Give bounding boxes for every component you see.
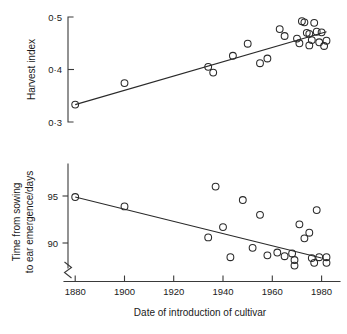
x-tick-label: 1900	[114, 286, 135, 297]
x-tick-label: 1940	[212, 286, 233, 297]
bottom-panel-x-ticks	[75, 276, 321, 282]
data-point	[296, 221, 303, 228]
data-point	[281, 33, 288, 40]
data-point	[313, 207, 320, 214]
data-point	[244, 40, 251, 47]
data-point	[276, 26, 283, 33]
data-point	[230, 52, 237, 59]
data-point	[239, 197, 246, 204]
bottom-panel-x-tick-labels: 1880 1900 1920 1940 1960 1980	[65, 286, 333, 297]
bottom-panel-fit-line	[75, 197, 321, 258]
data-point	[264, 252, 271, 259]
axis-break-icon	[65, 262, 72, 278]
figure-container: 0·5 0·4 0·3 Harvest index	[0, 0, 347, 334]
bottom-panel-y-tick-label-90: 90	[47, 238, 58, 249]
data-point	[301, 235, 308, 242]
data-point	[121, 80, 128, 87]
x-tick-label: 1980	[311, 286, 332, 297]
bottom-panel: 95 90 Time from sowing to ear emergence/…	[11, 164, 340, 318]
data-point	[205, 234, 212, 241]
data-point	[257, 60, 264, 67]
data-point	[264, 55, 271, 62]
bottom-panel-y-axis-title-line1: Time from sowing	[11, 183, 22, 262]
data-point	[220, 224, 227, 231]
top-panel: 0·5 0·4 0·3 Harvest index	[26, 12, 330, 128]
top-panel-y-tick-label-0: 0·5	[48, 12, 62, 23]
data-point	[257, 211, 264, 218]
two-panel-scatter-figure: 0·5 0·4 0·3 Harvest index	[0, 0, 347, 334]
data-point	[316, 39, 323, 46]
x-tick-label: 1960	[262, 286, 283, 297]
x-tick-label: 1920	[163, 286, 184, 297]
data-point	[274, 249, 281, 256]
data-point	[249, 244, 256, 251]
data-point	[210, 69, 217, 76]
top-panel-y-axis-title: Harvest index	[26, 39, 37, 100]
data-point	[311, 19, 318, 26]
data-point	[212, 183, 219, 190]
x-axis-title: Date of introduction of cultivar	[134, 307, 267, 318]
top-panel-y-tick-label-1: 0·4	[48, 64, 62, 75]
bottom-panel-y-axis-title-line2: to ear emergence/days	[24, 171, 35, 273]
data-point	[281, 253, 288, 260]
bottom-panel-y-tick-label-95: 95	[47, 191, 58, 202]
top-panel-y-tick-label-2: 0·3	[48, 117, 62, 128]
x-tick-label: 1880	[65, 286, 86, 297]
data-point	[301, 19, 308, 26]
top-panel-fit-line	[75, 32, 326, 105]
bottom-panel-data-points	[72, 183, 330, 269]
data-point	[227, 254, 234, 261]
data-point	[306, 229, 313, 236]
